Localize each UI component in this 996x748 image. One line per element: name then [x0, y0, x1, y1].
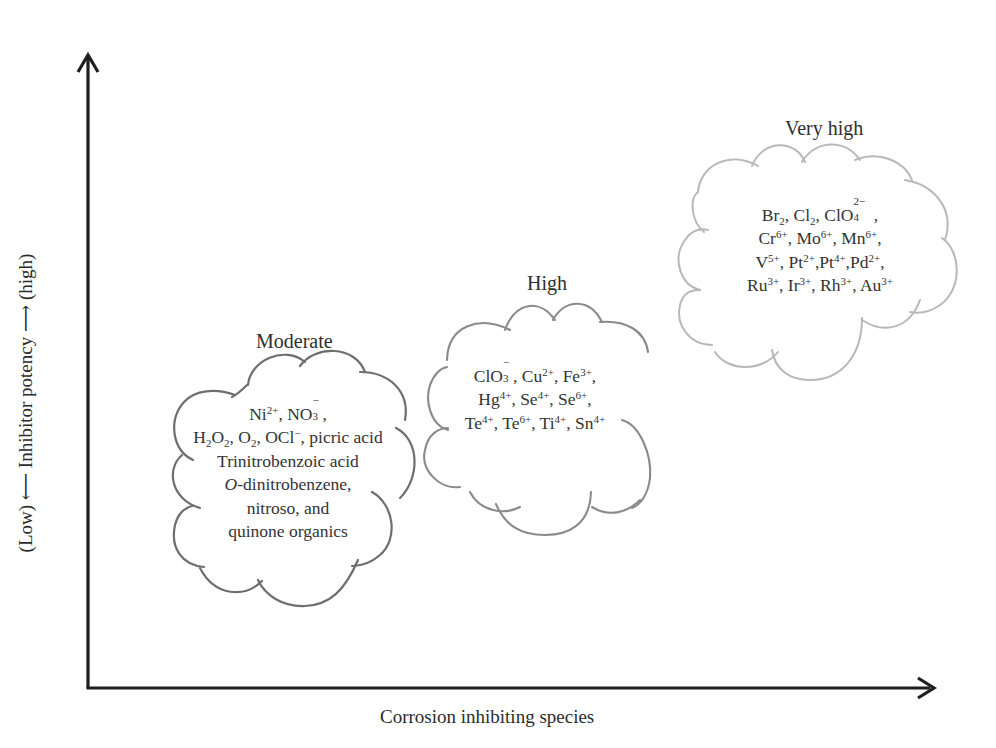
diagram-canvas: (Low) ⟵ Inhibitor potency ⟶ (high) Corro… [0, 0, 996, 748]
cloud-high-title: High [527, 272, 567, 295]
moderate-line-3: Trinitrobenzoic acid [168, 450, 408, 474]
cloud-moderate-title: Moderate [256, 330, 333, 353]
moderate-line-5: nitroso, and [168, 497, 408, 521]
veryhigh-line-4: Ru3+, Ir3+, Rh3+, Au3+ [700, 274, 940, 298]
high-line-1: ClO−3, Cu2+, Fe3+, [420, 364, 650, 388]
veryhigh-line-3: V5+, Pt2+,Pt4+,Pd2+, [700, 251, 940, 275]
cloud-veryhigh-content: Br2, Cl2, ClO2−4 , Cr6+, Mo6+, Mn6+, V5+… [700, 203, 940, 298]
moderate-line-6: quinone organics [168, 520, 408, 544]
moderate-line-2: H2O2, O2, OCl−, picric acid [168, 426, 408, 450]
cloud-veryhigh-title: Very high [785, 117, 863, 140]
cloud-high-content: ClO−3, Cu2+, Fe3+, Hg4+, Se4+, Se6+, Te4… [420, 364, 650, 435]
y-axis-label: (Low) ⟵ Inhibitor potency ⟶ (high) [15, 193, 37, 613]
veryhigh-line-1: Br2, Cl2, ClO2−4 , [700, 203, 940, 227]
x-axis [87, 678, 935, 698]
moderate-line-4: O-dinitrobenzene, [168, 473, 408, 497]
high-line-2: Hg4+, Se4+, Se6+, [420, 388, 650, 412]
y-axis [78, 55, 98, 688]
moderate-line-1: Ni2+, NO−3, [168, 402, 408, 426]
high-line-3: Te4+, Te6+, Ti4+, Sn4+ [420, 412, 650, 436]
cloud-moderate-content: Ni2+, NO−3, H2O2, O2, OCl−, picric acid … [168, 402, 408, 544]
x-axis-label: Corrosion inhibiting species [380, 706, 594, 728]
veryhigh-line-2: Cr6+, Mo6+, Mn6+, [700, 227, 940, 251]
